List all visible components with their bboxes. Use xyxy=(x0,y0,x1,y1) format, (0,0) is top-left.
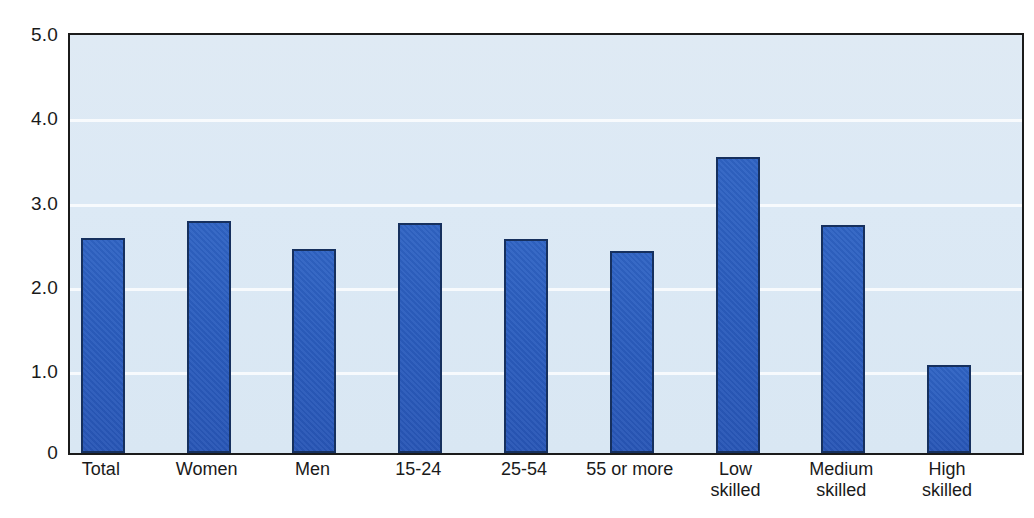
y-tick-label: 0 xyxy=(47,442,58,464)
bar xyxy=(504,239,548,453)
x-tick-label: 15-24 xyxy=(395,459,441,480)
x-tick-label: Total xyxy=(82,459,120,480)
plot-area xyxy=(68,33,1024,455)
bars-layer xyxy=(70,35,1022,453)
x-axis: TotalWomenMen15-2425-5455 or moreLow ski… xyxy=(68,459,1024,515)
x-tick-label: High skilled xyxy=(922,459,972,501)
x-tick-label: 55 or more xyxy=(586,459,673,480)
y-axis: 5.0 4.0 3.0 2.0 1.0 0 xyxy=(0,0,68,518)
y-tick-label: 1.0 xyxy=(31,361,58,383)
bar xyxy=(187,221,231,453)
bar xyxy=(81,238,125,453)
x-tick-label: Low skilled xyxy=(711,459,761,501)
bar xyxy=(292,249,336,453)
y-tick-label: 3.0 xyxy=(31,193,58,215)
bar xyxy=(821,225,865,453)
plot-inner xyxy=(70,35,1022,453)
y-tick-label: 4.0 xyxy=(31,108,58,130)
x-tick-label: 25-54 xyxy=(501,459,547,480)
x-tick-label: Men xyxy=(295,459,330,480)
bar xyxy=(927,365,971,453)
bar-chart: 5.0 4.0 3.0 2.0 1.0 0 TotalWomenMen15-24… xyxy=(0,0,1034,518)
y-tick-label: 2.0 xyxy=(31,277,58,299)
x-tick-label: Women xyxy=(176,459,238,480)
bar xyxy=(716,157,760,453)
x-tick-label: Medium skilled xyxy=(809,459,873,501)
bar xyxy=(610,251,654,453)
bar xyxy=(398,223,442,453)
y-tick-label: 5.0 xyxy=(31,24,58,46)
